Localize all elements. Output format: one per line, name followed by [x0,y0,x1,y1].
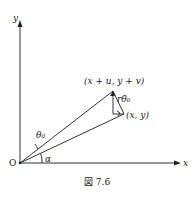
top-point-label: (x + u, y + v) [84,77,144,86]
theta-arc [35,144,38,149]
x-arrowhead [174,161,181,166]
origin-label: O [9,159,16,168]
segment-label: rθ̇₀ [117,95,130,104]
x-axis-label: x [183,159,188,168]
origin-dot [19,162,22,165]
alpha-arc [41,153,43,163]
figure-caption: 図 7.6 [84,178,110,187]
y-arrowhead [18,20,23,27]
bottom-point-label: (x, y) [126,111,149,120]
ray-to-top-point [20,91,113,163]
diagram-canvas [0,0,192,197]
y-axis-label: y [13,14,18,23]
theta-label: θ₀ [36,131,45,140]
alpha-label: α [45,155,51,164]
